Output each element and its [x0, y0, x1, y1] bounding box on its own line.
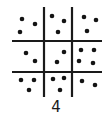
dot — [93, 83, 98, 88]
dot — [79, 48, 84, 53]
dot — [62, 50, 67, 55]
dot — [27, 88, 32, 93]
dot — [92, 48, 97, 53]
dot — [56, 30, 61, 35]
dot — [24, 51, 29, 56]
dot — [91, 61, 96, 66]
dot — [58, 88, 63, 93]
dot — [94, 18, 99, 23]
dot — [33, 22, 38, 27]
dot — [33, 59, 38, 64]
dot — [62, 19, 67, 24]
dot — [77, 59, 82, 64]
dot — [19, 78, 24, 83]
dot-grid-figure: 4 — [0, 0, 110, 117]
dot — [82, 15, 87, 20]
dot — [55, 60, 60, 65]
caption-numeral: 4 — [51, 98, 61, 116]
dot — [85, 29, 90, 34]
dot — [62, 76, 67, 81]
dot-grid-canvas: 4 — [0, 0, 110, 117]
dot — [51, 77, 56, 82]
dot — [32, 78, 37, 83]
dot — [18, 30, 23, 35]
dot — [20, 17, 25, 22]
dot — [50, 14, 55, 19]
dot — [80, 79, 85, 84]
